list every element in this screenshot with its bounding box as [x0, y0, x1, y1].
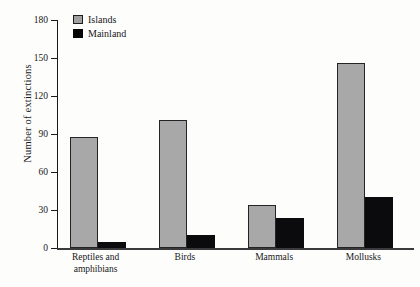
tick-mark: [51, 172, 57, 173]
y-tick-label: 120: [34, 91, 48, 101]
tick-mark: [51, 20, 57, 21]
tick-mark: [51, 134, 57, 135]
bar-islands: [248, 205, 276, 248]
category-label: Mollusks: [319, 252, 408, 264]
y-tick-label: 150: [34, 53, 48, 63]
y-tick-label: 30: [39, 205, 49, 215]
plot-area: 0306090120150180 Reptiles and amphibians…: [57, 20, 414, 248]
x-axis-baseline: [57, 248, 414, 250]
bar-chart-figure: Number of extinctions 0306090120150180 R…: [0, 0, 420, 287]
category-label: Birds: [140, 252, 229, 264]
legend-label: Islands: [88, 13, 116, 27]
bar-group: [159, 20, 215, 248]
y-axis-line: [57, 20, 58, 248]
legend-item-islands: Islands: [73, 13, 126, 27]
tick-mark: [51, 210, 57, 211]
y-tick-label: 60: [39, 167, 49, 177]
chart-legend: IslandsMainland: [73, 13, 126, 40]
category-label: Mammals: [230, 252, 319, 264]
bar-islands: [159, 120, 187, 248]
bar-mainland: [365, 197, 393, 248]
y-tick-label: 180: [34, 15, 48, 25]
category-label: Reptiles and amphibians: [51, 252, 140, 275]
gray-swatch-icon: [73, 15, 83, 24]
tick-mark: [51, 96, 57, 97]
y-tick-label: 90: [39, 129, 49, 139]
legend-label: Mainland: [88, 27, 126, 41]
y-tick-label: 0: [43, 243, 48, 253]
bar-group: [70, 20, 126, 248]
bar-mainland: [187, 235, 215, 248]
y-axis-title: Number of extinctions: [22, 29, 33, 199]
legend-item-mainland: Mainland: [73, 27, 126, 41]
tick-mark: [51, 58, 57, 59]
bar-group: [248, 20, 304, 248]
bar-islands: [337, 63, 365, 248]
bar-mainland: [98, 242, 126, 248]
tick-mark: [51, 248, 57, 249]
black-swatch-icon: [73, 29, 83, 38]
bar-mainland: [276, 218, 304, 248]
bar-group: [337, 20, 393, 248]
bar-islands: [70, 137, 98, 248]
